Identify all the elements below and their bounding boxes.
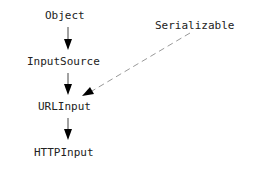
node-urlinput: URLInput [38,100,91,113]
node-serializable: Serializable [155,19,234,32]
node-inputsource: InputSource [27,55,100,68]
edge-urlinput-httpinput [64,118,72,140]
edge-object-inputsource [64,27,72,50]
edge-inputsource-urlinput [64,73,72,95]
node-object: Object [45,9,85,22]
node-httpinput: HTTPInput [34,146,94,159]
